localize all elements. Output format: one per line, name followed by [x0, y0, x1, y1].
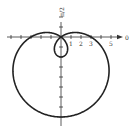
tick-label-1: 1 — [69, 40, 73, 47]
svg-text:π/2: π/2 — [58, 7, 65, 17]
polar-axis-arrow-icon — [117, 35, 123, 39]
tick-label-5: 5 — [109, 40, 113, 47]
polar-graph: 0 π/2 1 2 3 5 — [0, 0, 136, 136]
polar-axis-label: 0 — [125, 34, 129, 41]
tick-label-2: 2 — [79, 40, 83, 47]
vertical-axis-label: π/2 — [58, 7, 65, 17]
tick-label-3: 3 — [89, 40, 93, 47]
